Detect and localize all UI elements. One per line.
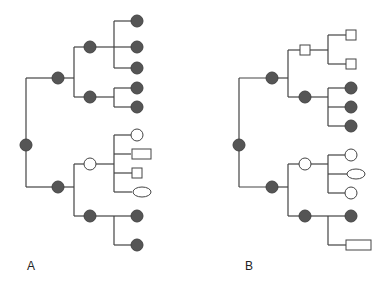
open-rect-node — [132, 168, 142, 178]
filled-circle-node — [345, 101, 357, 113]
filled-circle-node — [266, 181, 278, 193]
filled-circle-node — [345, 210, 357, 222]
filled-circle-node — [299, 91, 311, 103]
open-circle-node — [131, 129, 143, 141]
filled-circle-node — [345, 120, 357, 132]
filled-circle-node — [233, 139, 245, 151]
filled-circle-node — [131, 210, 143, 222]
open-rect-node — [346, 240, 371, 250]
filled-circle-node — [131, 62, 143, 74]
figure: A B — [0, 0, 383, 282]
filled-circle-node — [266, 72, 278, 84]
filled-circle-node — [131, 82, 143, 94]
filled-circle-node — [299, 210, 311, 222]
open-rect-node — [300, 45, 310, 55]
panel-label-b: B — [245, 259, 253, 273]
panel-label-a: A — [27, 259, 35, 273]
filled-circle-node — [131, 101, 143, 113]
filled-circle-node — [84, 41, 96, 53]
open-ellipse-node — [133, 187, 151, 197]
open-circle-node — [84, 158, 96, 170]
filled-circle-node — [84, 91, 96, 103]
open-circle-node — [299, 158, 311, 170]
tree-diagram-canvas — [0, 0, 383, 282]
filled-circle-node — [131, 15, 143, 27]
filled-circle-node — [84, 210, 96, 222]
open-rect-node — [132, 149, 151, 159]
tree-a — [20, 15, 151, 251]
tree-b — [233, 30, 371, 250]
open-rect-node — [346, 59, 356, 69]
open-circle-node — [345, 149, 357, 161]
filled-circle-node — [52, 72, 64, 84]
filled-circle-node — [131, 41, 143, 53]
filled-circle-node — [345, 82, 357, 94]
filled-circle-node — [20, 139, 32, 151]
open-circle-node — [345, 187, 357, 199]
filled-circle-node — [52, 181, 64, 193]
open-rect-node — [346, 30, 356, 40]
open-ellipse-node — [347, 169, 365, 179]
filled-circle-node — [131, 239, 143, 251]
